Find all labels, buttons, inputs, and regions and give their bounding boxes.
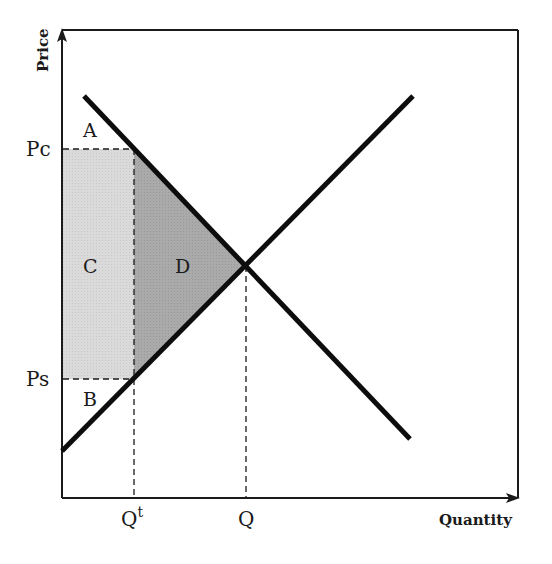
ps-label: Ps: [26, 367, 49, 391]
region-d-label: D: [175, 255, 190, 277]
qt-label-base: Q: [121, 507, 137, 531]
qt-label-superscript: t: [137, 504, 143, 520]
y-axis-title: Price: [34, 28, 52, 72]
x-axis-title: Quantity: [439, 511, 513, 529]
region-c-area: [63, 149, 134, 379]
region-a-label: A: [82, 119, 97, 141]
region-c-label: C: [83, 255, 98, 277]
q-label: Q: [238, 507, 254, 531]
pc-label: Pc: [26, 137, 51, 161]
deadweight-loss-diagram: Price Quantity Pc Ps Qt Q A B C D: [0, 0, 552, 564]
qt-label: Qt: [121, 504, 143, 531]
region-b-label: B: [83, 388, 97, 410]
